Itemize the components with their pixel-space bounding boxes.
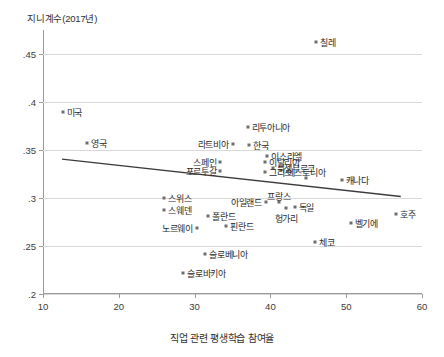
- x-tick-mark: [119, 294, 120, 298]
- data-point[interactable]: [264, 161, 267, 164]
- x-tick-mark: [422, 294, 423, 298]
- data-point[interactable]: [207, 215, 210, 218]
- data-point[interactable]: [219, 170, 222, 173]
- data-point-label: 핀란드: [230, 219, 253, 232]
- data-point-label: 체코: [319, 236, 334, 249]
- x-tick-mark: [43, 294, 44, 298]
- data-point[interactable]: [61, 110, 64, 113]
- data-point-label: 영국: [91, 137, 106, 150]
- x-tick-label: 30: [189, 301, 200, 312]
- data-point-label: 헝가리: [275, 212, 298, 225]
- y-tick-label: .45: [23, 49, 36, 60]
- y-tick-label: .2: [28, 289, 36, 300]
- data-point-label: 리투아니아: [252, 120, 291, 133]
- data-point-label: 아일랜드: [231, 195, 262, 208]
- x-tick-mark: [270, 294, 271, 298]
- data-point[interactable]: [314, 41, 317, 44]
- y-tick-label: .25: [23, 241, 36, 252]
- x-tick-mark: [346, 294, 347, 298]
- data-point-label: 미국: [67, 105, 82, 118]
- x-tick-label: 60: [417, 301, 428, 312]
- y-tick-label: .4: [28, 97, 36, 108]
- data-point-label: 라트비아: [198, 138, 229, 151]
- x-tick-label: 10: [38, 301, 49, 312]
- data-point[interactable]: [349, 221, 352, 224]
- data-point[interactable]: [85, 142, 88, 145]
- data-point[interactable]: [219, 160, 222, 163]
- data-point[interactable]: [231, 143, 234, 146]
- x-tick-label: 20: [114, 301, 125, 312]
- data-point-label: 벨기에: [355, 216, 378, 229]
- data-point-label: 노르웨이: [162, 221, 193, 234]
- y-tick-label: .3: [28, 193, 36, 204]
- data-point[interactable]: [163, 209, 166, 212]
- data-point[interactable]: [395, 213, 398, 216]
- x-axis-title: 직업 관련 평생학습 참여율: [0, 330, 444, 345]
- data-point-label: 스위스: [168, 192, 191, 205]
- gridline: [43, 294, 422, 295]
- data-point[interactable]: [293, 205, 296, 208]
- data-point[interactable]: [182, 271, 185, 274]
- data-point-label: 한국: [253, 139, 268, 152]
- data-point-label: 슬로베니아: [209, 247, 248, 260]
- data-point-label: 에스토니아: [287, 166, 326, 179]
- data-point[interactable]: [314, 241, 317, 244]
- data-point-label: 호주: [400, 208, 415, 221]
- y-tick-label: .35: [23, 145, 36, 156]
- data-point[interactable]: [204, 252, 207, 255]
- data-point-label: 포르투갈: [186, 165, 217, 178]
- data-point-label: 칠레: [320, 36, 335, 49]
- data-point[interactable]: [248, 144, 251, 147]
- data-point[interactable]: [264, 171, 267, 174]
- scatter-chart-figure: 지니계수(2017년) .2.25.3.35.4.45 102030405060…: [0, 0, 444, 357]
- data-point-label: 스웨덴: [168, 204, 191, 217]
- data-point-label: 캐나다: [346, 173, 369, 186]
- data-point-label: 프랑스: [267, 190, 290, 203]
- data-point-label: 독일: [299, 200, 314, 213]
- x-tick-mark: [195, 294, 196, 298]
- data-point[interactable]: [163, 197, 166, 200]
- data-point[interactable]: [195, 226, 198, 229]
- data-point[interactable]: [246, 125, 249, 128]
- plot-area: .2.25.3.35.4.45 102030405060 칠레미국영국리투아니아…: [43, 30, 422, 294]
- y-axis-title: 지니계수(2017년): [27, 11, 97, 25]
- data-point[interactable]: [225, 224, 228, 227]
- data-point-label: 슬로바키아: [187, 266, 226, 279]
- x-tick-label: 40: [265, 301, 276, 312]
- data-point[interactable]: [285, 206, 288, 209]
- data-point[interactable]: [340, 178, 343, 181]
- x-tick-label: 50: [341, 301, 352, 312]
